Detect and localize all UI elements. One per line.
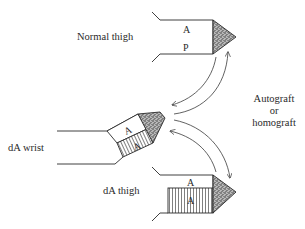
graft-type-line3: homograft: [252, 117, 296, 128]
da-thigh-label: dA thigh: [103, 185, 140, 196]
graft-arrows: [170, 52, 230, 178]
da-thigh-zone-top: A: [187, 177, 195, 188]
arrow-wrist-to-da-thigh: [174, 120, 230, 178]
graft-type-line1: Autograft: [254, 93, 295, 104]
da-thigh-aer-cap: [213, 175, 236, 213]
da-wrist-label: dA wrist: [8, 142, 44, 153]
normal-thigh-aer-cap: [213, 20, 236, 54]
normal-thigh-body-outline: [152, 12, 213, 62]
arrow-wrist-to-thigh: [174, 52, 228, 114]
arrow-da-thigh-to-wrist: [170, 131, 216, 172]
graft-type-line2: or: [270, 105, 279, 116]
normal-thigh-limb: A P: [152, 12, 236, 62]
da-thigh-zone-bottom: A: [187, 195, 195, 206]
limb-bud-graft-diagram: A P Normal thigh A A dA wrist A A dA thi…: [0, 0, 305, 229]
normal-thigh-zone-posterior: P: [183, 42, 189, 53]
arrow-thigh-to-wrist: [172, 57, 216, 105]
da-wrist-limb: A A: [57, 112, 165, 164]
normal-thigh-zone-anterior: A: [183, 24, 191, 35]
da-thigh-limb: A A: [152, 167, 236, 221]
normal-thigh-label: Normal thigh: [77, 31, 134, 42]
graft-type-label: Autograft or homograft: [252, 93, 296, 128]
